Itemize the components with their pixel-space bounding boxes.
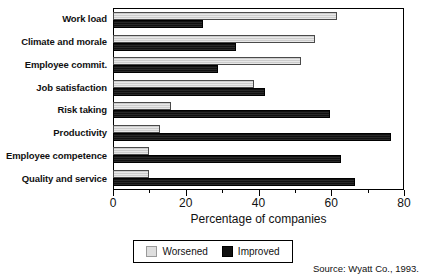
bar-group xyxy=(114,56,403,74)
bar-improved xyxy=(113,88,265,96)
category-label: Quality and service xyxy=(22,174,110,184)
bar-group xyxy=(114,79,403,97)
legend-item-improved: Improved xyxy=(222,246,280,257)
plot-area xyxy=(113,8,404,190)
bar-chart: Work loadClimate and moraleEmployee comm… xyxy=(0,0,423,279)
legend-label-improved: Improved xyxy=(238,246,280,257)
bar-group xyxy=(114,101,403,119)
bar-worsened xyxy=(113,80,254,88)
bar-improved xyxy=(113,178,355,186)
bar-improved xyxy=(113,110,330,118)
bar-rows xyxy=(114,9,403,189)
x-tick-label: 60 xyxy=(325,196,338,210)
x-tick-minor xyxy=(222,190,223,193)
category-label: Employee competence xyxy=(6,151,110,161)
bar-improved xyxy=(113,65,218,73)
x-tick-label: 0 xyxy=(110,196,117,210)
category-label: Productivity xyxy=(53,128,110,138)
x-tick-minor xyxy=(149,190,150,193)
category-label: Risk taking xyxy=(57,105,110,115)
x-tick-minor xyxy=(295,190,296,193)
bar-worsened xyxy=(113,170,149,178)
bar-improved xyxy=(113,155,341,163)
source-note: Source: Wyatt Co., 1993. xyxy=(313,263,419,274)
x-axis-title: Percentage of companies xyxy=(113,212,404,227)
x-tick-label: 80 xyxy=(397,196,410,210)
category-label: Job satisfaction xyxy=(36,83,110,93)
bar-worsened xyxy=(113,102,171,110)
bar-group xyxy=(114,11,403,29)
legend-label-worsened: Worsened xyxy=(162,246,207,257)
bar-worsened xyxy=(113,147,149,155)
legend-item-worsened: Worsened xyxy=(146,246,207,257)
chart-legend: Worsened Improved xyxy=(133,240,293,263)
bar-improved xyxy=(113,20,203,28)
x-axis-tick-labels: 020406080 xyxy=(113,196,404,212)
category-label: Work load xyxy=(62,14,110,24)
x-tick-minor xyxy=(368,190,369,193)
bar-group xyxy=(114,169,403,187)
worsened-swatch-icon xyxy=(146,246,157,257)
bar-improved xyxy=(113,133,391,141)
x-tick-label: 40 xyxy=(252,196,265,210)
bar-group xyxy=(114,124,403,142)
bar-improved xyxy=(113,43,236,51)
improved-swatch-icon xyxy=(222,246,233,257)
bar-worsened xyxy=(113,125,160,133)
bar-group xyxy=(114,146,403,164)
bar-worsened xyxy=(113,12,337,20)
bar-worsened xyxy=(113,35,315,43)
x-tick-label: 20 xyxy=(179,196,192,210)
bar-worsened xyxy=(113,57,301,65)
category-label: Climate and morale xyxy=(21,37,110,47)
category-label: Employee commit. xyxy=(25,60,110,70)
category-axis-labels: Work loadClimate and moraleEmployee comm… xyxy=(0,8,110,190)
bar-group xyxy=(114,34,403,52)
